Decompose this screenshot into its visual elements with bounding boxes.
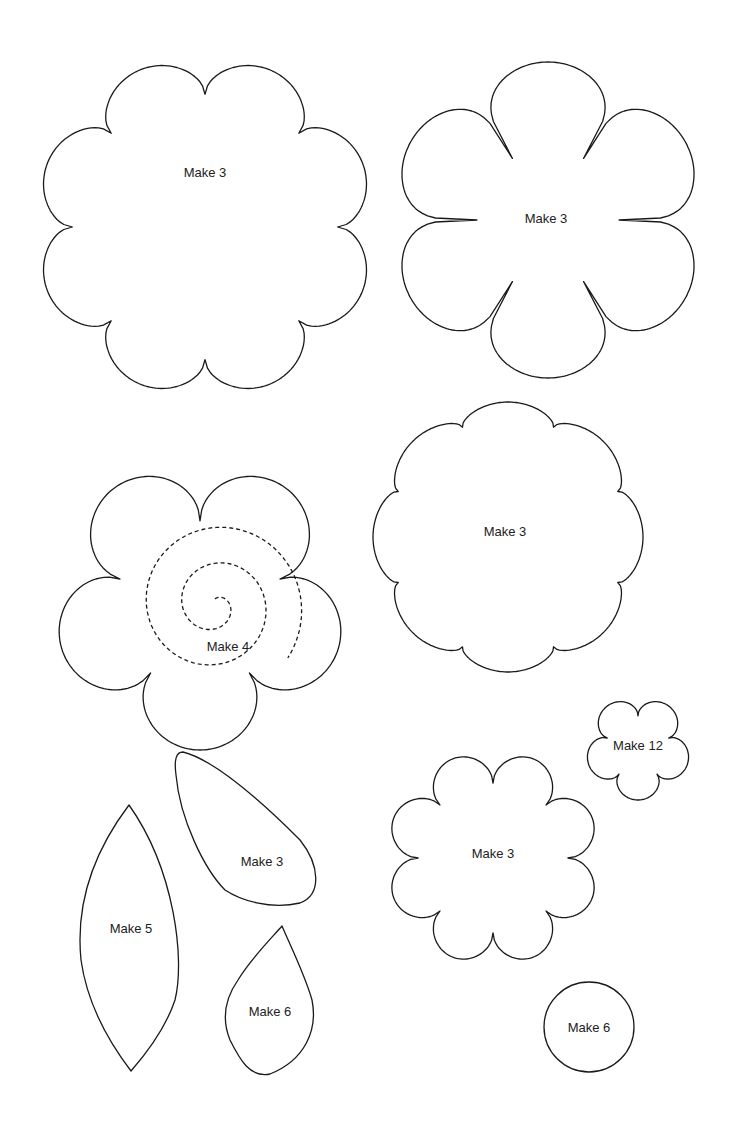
leaf-long-label: Make 5 [110, 921, 153, 936]
leaf-small-label: Make 6 [249, 1004, 292, 1019]
template-sheet [0, 0, 732, 1139]
flower-8-wavy-label: Make 3 [472, 846, 515, 861]
flower-5-spiral-label: Make 4 [207, 639, 250, 654]
petal-teardrop-shape [175, 752, 315, 905]
leaf-small-shape [225, 926, 313, 1075]
flower-5-small-label: Make 12 [613, 738, 663, 753]
flower-8-medium-label: Make 3 [484, 524, 527, 539]
petal-teardrop-label: Make 3 [241, 854, 284, 869]
leaf-long-shape [80, 805, 179, 1071]
flower-8-large-label: Make 3 [184, 165, 227, 180]
circle-label: Make 6 [568, 1020, 611, 1035]
flower-8-large-shape [44, 66, 367, 389]
flower-5-spiral-shape [59, 476, 341, 750]
flower-6-pointed-label: Make 3 [525, 211, 568, 226]
